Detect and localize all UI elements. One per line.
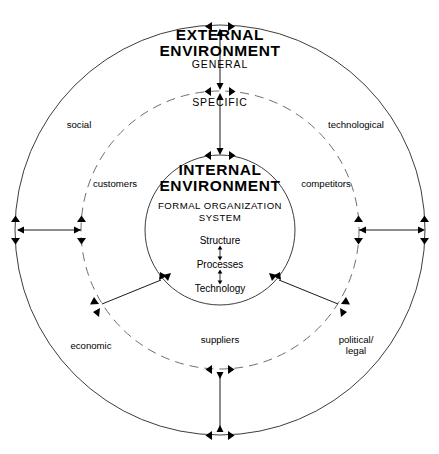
- arrowhead-outer-right-up: [420, 216, 429, 223]
- connector-diagonal-lower-right: [279, 280, 338, 304]
- arrowhead-middle-top-down: [217, 83, 224, 90]
- arrowhead-diag-ll-outer-b: [93, 308, 100, 317]
- arrowhead-middle-right-up: [354, 216, 363, 223]
- arrowhead-inner-top-down: [217, 148, 224, 155]
- arrowhead-middle-left-inward: [74, 227, 81, 234]
- arrowhead-outer-left-inward: [17, 227, 24, 234]
- general-sector-political-legal: political/ legal: [322, 334, 390, 357]
- internal-environment-heading-line2: ENVIRONMENT: [140, 177, 300, 195]
- general-environment-label: GENERAL: [150, 58, 290, 70]
- formal-organization-subtitle-line1: FORMAL ORGANIZATION: [140, 200, 300, 211]
- arrowhead-middle-left-down: [77, 238, 86, 245]
- specific-environment-label: SPECIFIC: [150, 96, 290, 108]
- arrowhead-diag-lr-outer-b: [340, 308, 347, 317]
- arrowhead-middle-bottom-down: [217, 372, 224, 379]
- arrowhead-middle-bottom-right: [228, 365, 235, 374]
- arrowhead-outer-left-down: [11, 238, 20, 245]
- internal-component-technology: Technology: [170, 283, 270, 295]
- arrowhead-outer-right-down: [420, 238, 429, 245]
- arrowhead-middle-right-down: [354, 238, 363, 245]
- arrowhead-outer-bottom-right: [228, 431, 235, 440]
- specific-sector-competitors: competitors: [286, 178, 366, 189]
- internal-component-processes: Processes: [170, 259, 270, 271]
- arrowhead-middle-left-up: [77, 216, 86, 223]
- arrowhead-outer-right-inward: [418, 227, 425, 234]
- formal-organization-subtitle-line2: SYSTEM: [140, 212, 300, 223]
- general-sector-social: social: [44, 119, 114, 130]
- arrowhead-inner-top-left: [205, 151, 212, 160]
- arrowhead-middle-bottom-left: [206, 365, 213, 374]
- arrowhead-diag-lr-outer-a: [341, 297, 350, 305]
- connector-diagonal-lower-left: [102, 280, 161, 304]
- organizational-environment-diagram: EXTERNAL ENVIRONMENT GENERAL SPECIFIC IN…: [0, 0, 439, 454]
- general-sector-economic: economic: [56, 340, 126, 351]
- arrowhead-inner-top-right: [229, 151, 236, 160]
- arrowhead-middle-top-right: [229, 87, 236, 96]
- internal-component-structure: Structure: [170, 235, 270, 247]
- arrowhead-outer-left-up: [11, 216, 20, 223]
- arrowhead-diag-ll-outer-a: [90, 297, 99, 305]
- arrowhead-outer-bottom-up: [217, 425, 224, 432]
- arrowhead-outer-bottom-left: [206, 431, 213, 440]
- specific-sector-customers: customers: [78, 178, 152, 189]
- arrowhead-middle-top-left: [205, 87, 212, 96]
- general-sector-technological: technological: [312, 119, 400, 130]
- arrowhead-middle-right-inward: [359, 227, 366, 234]
- specific-sector-suppliers: suppliers: [184, 334, 256, 345]
